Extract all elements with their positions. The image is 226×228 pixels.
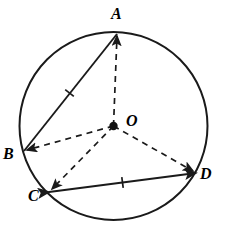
center-point-dot (109, 122, 117, 130)
point-label-c: C (28, 188, 39, 204)
center-label-o: O (126, 113, 138, 129)
chord-ab (24, 34, 117, 151)
tick-marks-group (65, 90, 123, 188)
radius-oa (114, 36, 118, 126)
radius-oc (52, 126, 114, 189)
point-label-b: B (3, 146, 14, 162)
point-label-d: D (200, 166, 212, 182)
geometry-figure: O A B C D (0, 0, 226, 228)
radius-od (114, 126, 194, 171)
radii-group (27, 36, 193, 189)
congruence-tick-cd (122, 177, 123, 188)
point-label-a: A (111, 6, 122, 22)
